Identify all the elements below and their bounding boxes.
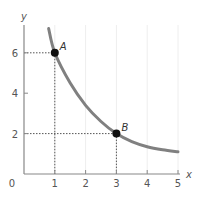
- guide-lines: [24, 53, 116, 174]
- point-label: A: [59, 41, 67, 52]
- x-axis-label: x: [185, 169, 192, 180]
- x-tick-label: 2: [82, 178, 88, 189]
- axes: [24, 25, 180, 174]
- x-tick-label: 4: [144, 178, 150, 189]
- chart: 012345246 y x AB: [0, 0, 201, 197]
- y-tick-label: 6: [12, 48, 18, 59]
- x-tick-label: 3: [113, 178, 119, 189]
- y-tick-label: 4: [12, 88, 18, 99]
- x-tick-label: 0: [9, 178, 15, 189]
- point-b: [112, 130, 120, 138]
- x-tick-label: 1: [52, 178, 58, 189]
- point-a: [51, 49, 59, 57]
- x-tick-label: 5: [175, 178, 181, 189]
- y-tick-label: 2: [12, 129, 18, 140]
- ticks: 012345246: [9, 48, 181, 189]
- point-label: B: [121, 122, 128, 133]
- y-axis-label: y: [20, 11, 28, 22]
